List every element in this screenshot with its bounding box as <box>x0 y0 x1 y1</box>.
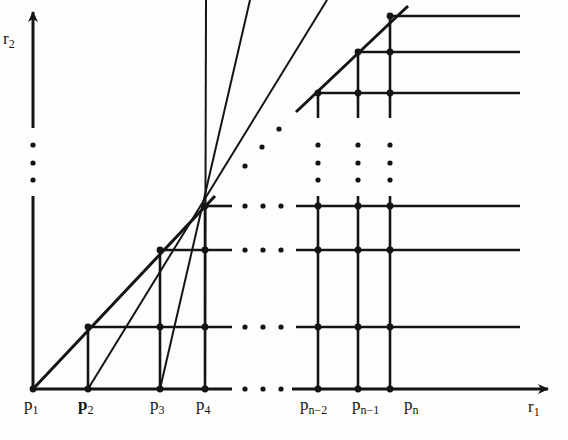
point-label-p4: p4 <box>196 396 211 416</box>
baseline-node <box>157 386 164 393</box>
ellipsis-dot-diagonal <box>276 126 281 131</box>
point-label-pn-sub: n <box>413 403 419 417</box>
point-label-pn-2: pn−2 <box>300 396 327 416</box>
lattice-node <box>315 203 322 210</box>
point-label-pn-1-sub: n−1 <box>361 403 380 417</box>
lattice-node <box>315 324 322 331</box>
lattice-node-p3 <box>157 247 164 254</box>
point-label-p3-sub: 3 <box>159 403 165 417</box>
ellipsis-dot-col <box>315 160 320 165</box>
ellipsis-dot-row <box>260 386 265 391</box>
axis-label-r2-sub: 2 <box>9 37 15 51</box>
lattice-node <box>355 247 362 254</box>
lattice-node <box>387 90 394 97</box>
lattice-node <box>315 247 322 254</box>
ellipsis-dot-col <box>315 177 320 182</box>
ellipsis-dot-row <box>260 324 265 329</box>
ellipsis-dot-col <box>355 142 360 147</box>
ellipsis-dot-row <box>242 203 247 208</box>
lattice-node <box>355 90 362 97</box>
lattice-node <box>355 203 362 210</box>
lattice-node <box>387 203 394 210</box>
lattice-node-pn <box>387 13 394 20</box>
lattice-node <box>202 247 209 254</box>
ellipsis-dot-col <box>315 142 320 147</box>
lattice-node-pn-1 <box>355 49 362 56</box>
ellipsis-dot-row <box>242 247 247 252</box>
point-label-pn-2-sub: n−2 <box>309 403 328 417</box>
point-label-p1-sub: 1 <box>33 403 39 417</box>
ellipsis-dot-row <box>278 203 283 208</box>
lattice-node-p1 <box>30 386 37 393</box>
lattice-node <box>157 324 164 331</box>
baseline-node <box>355 386 362 393</box>
ellipsis-dot-col <box>30 142 35 147</box>
lattice-node <box>202 324 209 331</box>
point-label-p2: p2 <box>78 396 93 416</box>
ellipsis-dot-row <box>278 247 283 252</box>
lattice-node-pn-2 <box>315 90 322 97</box>
ellipsis-dot-col <box>355 177 360 182</box>
lattice-node <box>387 247 394 254</box>
ellipsis-dot-col <box>387 177 392 182</box>
lattice-node-p2 <box>85 324 92 331</box>
ellipsis-dot-row <box>242 324 247 329</box>
lattice-node <box>355 324 362 331</box>
ellipsis-dot-diagonal <box>242 163 247 168</box>
ellipsis-dot-col <box>355 160 360 165</box>
lattice-node-p4 <box>202 203 209 210</box>
ellipsis-dot-row <box>278 386 283 391</box>
ellipsis-dot-col <box>387 142 392 147</box>
ellipsis-dot-diagonal <box>259 144 264 149</box>
baseline-node <box>387 386 394 393</box>
lattice-node <box>387 324 394 331</box>
rule-line <box>88 0 327 389</box>
staircase-diagonal-0 <box>33 196 215 389</box>
ellipsis-dot-row <box>260 247 265 252</box>
ellipsis-dot-row <box>242 386 247 391</box>
baseline-node <box>85 386 92 393</box>
baseline-node <box>315 386 322 393</box>
point-label-p2-sub: 2 <box>87 403 93 417</box>
ellipsis-dot-col <box>30 177 35 182</box>
generated-geometry <box>30 0 548 392</box>
lattice-node <box>387 49 394 56</box>
ellipsis-dot-col <box>30 160 35 165</box>
point-label-p1: p1 <box>24 396 39 416</box>
point-label-pn: pn <box>404 396 419 416</box>
diagram-canvas <box>0 0 568 440</box>
axis-label-r1: r1 <box>528 398 540 418</box>
lattice-diagram: r2 r1 p1 p2 p3 p4 pn−2 pn−1 pn <box>0 0 568 440</box>
point-label-pn-1: pn−1 <box>352 396 379 416</box>
point-label-p4-sub: 4 <box>205 403 211 417</box>
ellipsis-dot-col <box>387 160 392 165</box>
axis-label-r1-sub: 1 <box>534 405 540 419</box>
point-label-p3: p3 <box>150 396 165 416</box>
ellipsis-dot-row <box>260 203 265 208</box>
ellipsis-dot-row <box>278 324 283 329</box>
baseline-node <box>202 386 209 393</box>
axis-label-r2: r2 <box>3 30 15 50</box>
